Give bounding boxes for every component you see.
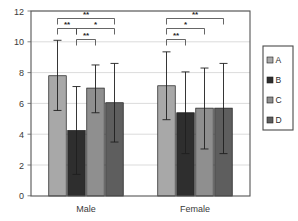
y-tick-label-6: 6 <box>19 99 24 109</box>
x-axis-category-labels: Male Female <box>76 204 210 214</box>
category-label-male: Male <box>76 204 96 214</box>
legend: A B C D <box>263 46 293 130</box>
sig-label: ** <box>83 31 90 40</box>
chart-canvas: 12 10 8 6 4 2 0 ************ Male Female… <box>0 0 298 221</box>
legend-label-c: C <box>276 95 282 105</box>
legend-label-b: B <box>276 75 282 85</box>
y-tick-label-10: 10 <box>14 37 24 47</box>
sig-label: ** <box>64 20 71 29</box>
legend-label-a: A <box>276 55 282 65</box>
legend-label-d: D <box>276 115 282 125</box>
legend-swatch-c-icon <box>267 97 273 103</box>
sig-label: ** <box>173 31 180 40</box>
y-tick-label-8: 8 <box>19 68 24 78</box>
y-tick-label-0: 0 <box>19 191 24 201</box>
bar-chart-figure: 12 10 8 6 4 2 0 ************ Male Female… <box>0 0 298 221</box>
y-tick-label-2: 2 <box>19 161 24 171</box>
legend-swatch-b-icon <box>267 77 273 83</box>
category-label-female: Female <box>180 204 210 214</box>
y-tick-label-12: 12 <box>14 7 24 17</box>
y-axis-tick-labels: 12 10 8 6 4 2 0 <box>14 7 24 202</box>
y-tick-label-4: 4 <box>19 130 24 140</box>
legend-swatch-a-icon <box>267 57 273 63</box>
legend-swatch-d-icon <box>267 117 273 123</box>
